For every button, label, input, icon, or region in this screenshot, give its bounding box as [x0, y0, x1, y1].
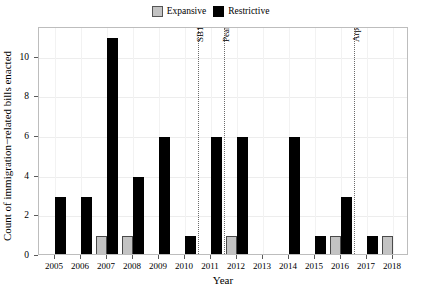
- annotation-line-pearce-recall: [224, 28, 225, 254]
- annotation-line-arpaio-ousted: [354, 28, 355, 254]
- bar-expansive-2018[interactable]: [382, 236, 393, 255]
- x-tick-mark: [80, 255, 81, 259]
- x-axis-title: Year: [38, 274, 408, 286]
- x-tick-mark: [236, 255, 237, 259]
- bar-restrictive-2005[interactable]: [55, 197, 66, 255]
- y-tick-label: 10: [7, 52, 29, 62]
- bar-expansive-2008[interactable]: [122, 236, 133, 255]
- annotation-label-pearce-recall: Pearce Recall: [222, 27, 231, 42]
- annotation-line-sb1070: [198, 28, 199, 254]
- legend-entry-restrictive: Restrictive: [213, 6, 269, 17]
- x-tick-mark: [314, 255, 315, 259]
- plot-area: SB1070Pearce RecallArpaio Ousted: [38, 27, 408, 255]
- bar-restrictive-2008[interactable]: [133, 177, 144, 255]
- bar-restrictive-2012[interactable]: [237, 137, 248, 255]
- x-tick-mark: [210, 255, 211, 259]
- bar-restrictive-2015[interactable]: [315, 236, 326, 255]
- annotation-label-arpaio-ousted: Arpaio Ousted: [352, 27, 361, 42]
- legend-swatch-expansive: [152, 6, 163, 17]
- y-tick-mark: [34, 136, 38, 137]
- gridline-vertical: [263, 28, 264, 254]
- gridline-horizontal: [39, 177, 407, 178]
- x-tick-label: 2018: [375, 261, 409, 271]
- bar-restrictive-2006[interactable]: [81, 197, 92, 255]
- x-tick-mark: [262, 255, 263, 259]
- gridline-horizontal: [39, 58, 407, 59]
- legend-swatch-restrictive: [213, 6, 224, 17]
- chart-legend: Expansive Restrictive: [0, 2, 421, 20]
- y-tick-label: 8: [7, 91, 29, 101]
- x-tick-mark: [288, 255, 289, 259]
- x-tick-mark: [54, 255, 55, 259]
- bar-restrictive-2011[interactable]: [211, 137, 222, 255]
- gridline-vertical: [393, 28, 394, 254]
- gridline-horizontal: [39, 137, 407, 138]
- x-tick-mark: [158, 255, 159, 259]
- y-tick-mark: [34, 215, 38, 216]
- legend-label-expansive: Expansive: [167, 6, 207, 17]
- bar-restrictive-2009[interactable]: [159, 137, 170, 255]
- y-tick-label: 4: [7, 171, 29, 181]
- bar-restrictive-2016[interactable]: [341, 197, 352, 255]
- bar-restrictive-2007[interactable]: [107, 38, 118, 255]
- y-axis-title: Count of immigration−related bills enact…: [0, 0, 15, 291]
- y-tick-mark: [34, 176, 38, 177]
- y-tick-mark: [34, 255, 38, 256]
- y-tick-mark: [34, 57, 38, 58]
- annotation-label-sb1070: SB1070: [196, 27, 205, 42]
- bar-expansive-2012[interactable]: [226, 236, 237, 255]
- y-tick-mark: [34, 96, 38, 97]
- legend-label-restrictive: Restrictive: [228, 6, 269, 17]
- x-tick-mark: [340, 255, 341, 259]
- x-tick-mark: [392, 255, 393, 259]
- x-tick-mark: [366, 255, 367, 259]
- x-tick-mark: [184, 255, 185, 259]
- bar-expansive-2007[interactable]: [96, 236, 107, 255]
- bar-expansive-2016[interactable]: [330, 236, 341, 255]
- x-tick-mark: [132, 255, 133, 259]
- y-tick-label: 6: [7, 131, 29, 141]
- gridline-vertical: [367, 28, 368, 254]
- bar-restrictive-2017[interactable]: [367, 236, 378, 255]
- x-tick-mark: [106, 255, 107, 259]
- bar-restrictive-2014[interactable]: [289, 137, 300, 255]
- gridline-vertical: [315, 28, 316, 254]
- legend-entry-expansive: Expansive: [152, 6, 207, 17]
- gridline-horizontal: [39, 97, 407, 98]
- y-tick-label: 0: [7, 250, 29, 260]
- y-tick-label: 2: [7, 210, 29, 220]
- bar-restrictive-2010[interactable]: [185, 236, 196, 255]
- gridline-vertical: [185, 28, 186, 254]
